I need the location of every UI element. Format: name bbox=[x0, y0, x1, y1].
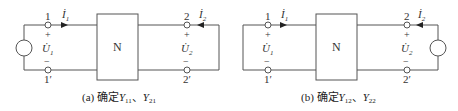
left-wire-a bbox=[24, 25, 45, 40]
terminal-label-2p-a: 2′ bbox=[183, 73, 191, 85]
figure-b bbox=[243, 14, 446, 80]
circuit-diagrams: 1 İ1 + U̇1 − 1′ N 2 İ2 + U̇2 − 2′ (a) 确定… bbox=[0, 0, 458, 111]
minus-sign-1-b: − bbox=[264, 56, 270, 67]
voltage-label-u1-b: U̇1 bbox=[262, 42, 273, 57]
voltage-label-u1-a: U̇1 bbox=[42, 42, 53, 57]
right-wire-b bbox=[410, 25, 438, 40]
terminal-label-1-b: 1 bbox=[265, 10, 271, 22]
plus-sign-1-b: + bbox=[265, 29, 271, 40]
voltage-source-icon bbox=[16, 40, 32, 56]
terminal-label-1p-b: 1′ bbox=[264, 73, 272, 85]
terminal-label-2-a: 2 bbox=[184, 10, 190, 22]
voltage-label-u2-b: U̇2 bbox=[401, 42, 413, 57]
minus-sign-1-a: − bbox=[44, 56, 50, 67]
terminal-2-b bbox=[404, 22, 410, 28]
current-label-i1-a: İ1 bbox=[61, 8, 69, 23]
current-label-i2-a: İ2 bbox=[198, 8, 207, 23]
caption-a: (a) 确定Y11、Y21 bbox=[82, 90, 156, 105]
right-wire-b-bottom bbox=[410, 56, 438, 70]
left-wire-a-bottom bbox=[24, 56, 45, 70]
voltage-source-icon bbox=[430, 40, 446, 56]
caption-b: (b) 确定Y12、Y22 bbox=[301, 90, 376, 105]
terminal-label-2-b: 2 bbox=[404, 10, 410, 22]
current-label-i1-b: İ1 bbox=[280, 8, 288, 23]
terminal-label-2p-b: 2′ bbox=[403, 73, 411, 85]
voltage-label-u2-a: U̇2 bbox=[181, 42, 193, 57]
terminal-1-b bbox=[265, 22, 271, 28]
short-circuit-wire-a bbox=[190, 25, 219, 70]
current-label-i2-b: İ2 bbox=[417, 8, 426, 23]
block-label-b: N bbox=[332, 40, 341, 54]
block-label-a: N bbox=[113, 40, 122, 54]
plus-sign-1-a: + bbox=[45, 29, 51, 40]
terminal-label-1p-a: 1′ bbox=[44, 73, 52, 85]
terminal-2-a bbox=[184, 22, 190, 28]
minus-sign-2-b: − bbox=[403, 56, 409, 67]
plus-sign-2-a: + bbox=[184, 29, 190, 40]
terminal-label-1-a: 1 bbox=[45, 10, 51, 22]
terminal-1-a bbox=[45, 22, 51, 28]
minus-sign-2-a: − bbox=[183, 56, 189, 67]
plus-sign-2-b: + bbox=[404, 29, 410, 40]
